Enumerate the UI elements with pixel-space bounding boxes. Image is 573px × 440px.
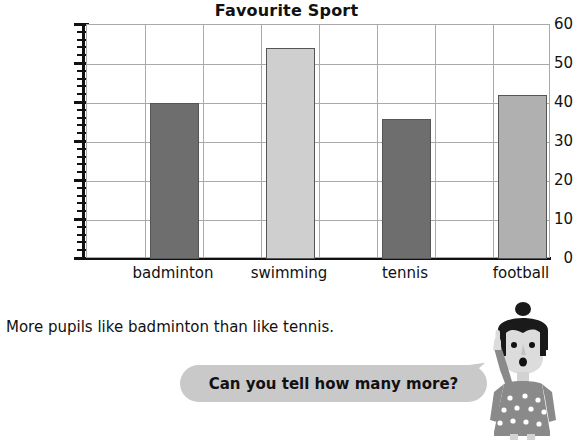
bar-chart-figure: Favourite Sport 60 50 40 30 20 10 0 badm… [0, 0, 573, 300]
girl-pointing-icon [470, 300, 573, 440]
gridline-v-6 [435, 25, 436, 257]
gridline-v-5 [377, 25, 378, 257]
chart-title: Favourite Sport [0, 1, 573, 20]
speech-bubble: Can you tell how many more? [180, 365, 487, 402]
x-tick-label-tennis: tennis [345, 264, 465, 282]
x-tick-label-badminton: badminton [113, 264, 233, 282]
plot-area [86, 24, 550, 258]
gridline-v-2 [203, 25, 204, 257]
character-illustration [470, 300, 573, 440]
x-tick-label-swimming: swimming [229, 264, 349, 282]
bar-badminton [150, 103, 199, 259]
speech-bubble-text: Can you tell how many more? [209, 375, 459, 393]
x-tick-label-football: football [461, 264, 573, 282]
statement-text: More pupils like badminton than like ten… [6, 318, 334, 336]
gridline-v-3 [261, 25, 262, 257]
gridline-h-50 [87, 64, 549, 65]
gridline-v-4 [319, 25, 320, 257]
bar-tennis [382, 119, 431, 259]
bar-football [498, 95, 547, 259]
gridline-v-1 [145, 25, 146, 257]
bar-swimming [266, 48, 315, 259]
gridline-v-7 [493, 25, 494, 257]
